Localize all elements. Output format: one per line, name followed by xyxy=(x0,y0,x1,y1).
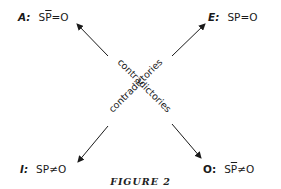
arrow-to-o xyxy=(172,124,201,158)
label-e-i: contradictories xyxy=(106,56,164,114)
figure-caption: FIGURE 2 xyxy=(0,176,281,187)
label-a-o: contradictories xyxy=(116,56,174,114)
contradictories-diagram: contradictories contradictories xyxy=(0,0,281,189)
arrow-to-a xyxy=(77,24,108,56)
arrow-to-e xyxy=(172,24,205,56)
arrow-to-i xyxy=(78,126,108,162)
